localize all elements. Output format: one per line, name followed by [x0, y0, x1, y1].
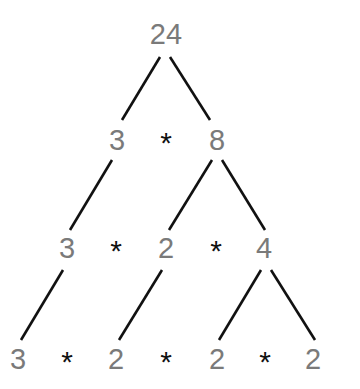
- factor-node: 8: [209, 126, 225, 155]
- tree-edge: [122, 57, 160, 120]
- factor-node: 2: [305, 345, 321, 374]
- factor-node: 3: [109, 126, 125, 155]
- factor-node: 2: [158, 234, 174, 263]
- tree-edges: [0, 0, 360, 389]
- multiply-operator: *: [61, 347, 73, 377]
- tree-edge: [21, 270, 63, 340]
- factor-tree-diagram: 243*83*2*43*2*2*2: [0, 0, 360, 389]
- tree-edge: [170, 57, 210, 120]
- multiply-operator: *: [160, 347, 172, 377]
- multiply-operator: *: [110, 236, 122, 266]
- tree-edge: [169, 160, 212, 230]
- factor-node: 2: [108, 345, 124, 374]
- factor-node: 3: [10, 345, 26, 374]
- tree-edge: [271, 270, 315, 340]
- tree-edge: [222, 160, 265, 230]
- tree-edge: [70, 160, 112, 230]
- multiply-operator: *: [259, 347, 271, 377]
- factor-node: 3: [59, 234, 75, 263]
- tree-edge: [219, 270, 261, 340]
- multiply-operator: *: [160, 128, 172, 158]
- factor-node: 24: [150, 20, 182, 49]
- factor-node: 4: [256, 234, 272, 263]
- multiply-operator: *: [210, 236, 222, 266]
- factor-node: 2: [209, 345, 225, 374]
- tree-edge: [119, 270, 162, 340]
